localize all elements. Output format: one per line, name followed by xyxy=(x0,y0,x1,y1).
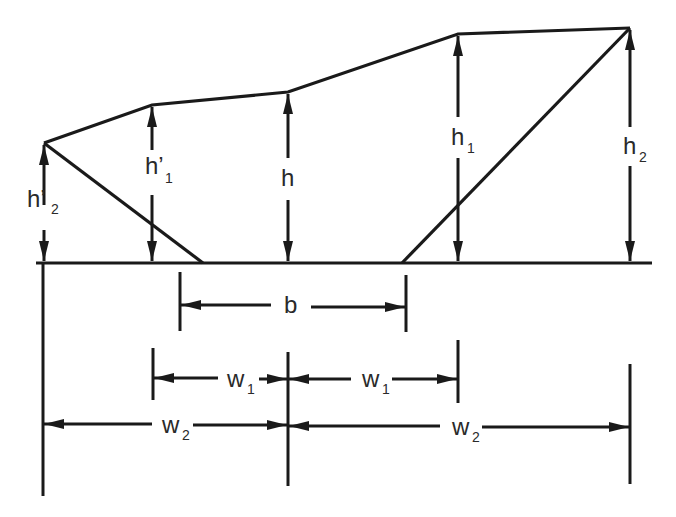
svg-text:w: w xyxy=(361,365,380,392)
svg-text:w: w xyxy=(451,413,470,440)
dim-w2-left: w 2 xyxy=(44,411,287,443)
svg-text:h: h xyxy=(451,123,464,150)
dim-b: b xyxy=(181,291,405,318)
left-slope-line xyxy=(44,143,203,263)
dim-w1-right: w 1 xyxy=(289,365,457,397)
svg-text:h: h xyxy=(281,164,294,191)
svg-text:1: 1 xyxy=(382,381,390,397)
top-profile-line xyxy=(44,28,630,143)
svg-text:2: 2 xyxy=(639,149,647,165)
dim-w2-right: w 2 xyxy=(289,413,629,445)
label-h1: h 1 xyxy=(451,123,475,156)
svg-text:b: b xyxy=(284,291,297,318)
label-h2-prime: h’ 2 xyxy=(27,185,59,217)
right-slope-line xyxy=(402,28,630,263)
svg-text:h’: h’ xyxy=(27,185,46,212)
svg-text:2: 2 xyxy=(51,201,59,217)
dim-w1-left: w 1 xyxy=(154,365,287,397)
svg-text:1: 1 xyxy=(165,170,173,186)
label-h: h xyxy=(281,164,294,191)
label-h2: h 2 xyxy=(623,132,647,165)
label-h1-prime: h’ 1 xyxy=(145,152,173,186)
svg-text:1: 1 xyxy=(247,381,255,397)
svg-text:w: w xyxy=(226,365,245,392)
cross-section-diagram: h’ 2 h’ 1 h h 1 h 2 b w 1 w 1 xyxy=(0,0,676,517)
svg-text:h: h xyxy=(623,132,636,159)
svg-text:w: w xyxy=(161,411,180,438)
svg-text:2: 2 xyxy=(472,429,480,445)
svg-text:1: 1 xyxy=(467,140,475,156)
svg-text:h’: h’ xyxy=(145,152,164,179)
svg-text:2: 2 xyxy=(182,427,190,443)
